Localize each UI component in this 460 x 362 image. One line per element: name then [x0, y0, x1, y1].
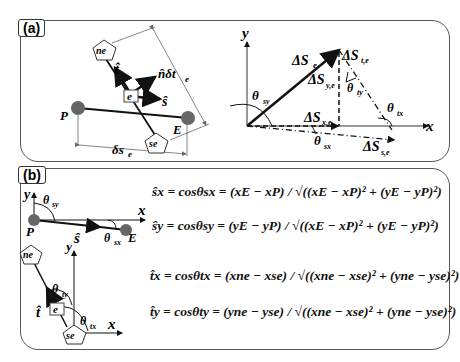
- svg-text:θ: θ: [52, 282, 59, 296]
- equation-s-x: ŝx = cosθsx = (xE − xP) / √((xE − xP)² +…: [152, 184, 442, 200]
- svg-text:sx: sx: [323, 142, 331, 151]
- svg-text:tx: tx: [397, 109, 403, 118]
- svg-text:y: y: [22, 187, 31, 202]
- svg-text:ΔS: ΔS: [303, 110, 321, 125]
- svg-text:sy: sy: [51, 200, 59, 209]
- svg-text:tx: tx: [90, 322, 96, 331]
- svg-text:P: P: [60, 108, 69, 123]
- s-vector-angle-diagram: y x θ sy P E ŝ θ sx: [0, 185, 150, 245]
- svg-text:θ: θ: [314, 133, 321, 148]
- svg-text:x: x: [137, 202, 146, 218]
- svg-text:ne: ne: [23, 249, 34, 260]
- svg-text:θ: θ: [104, 231, 111, 245]
- svg-text:ΔS: ΔS: [362, 139, 380, 154]
- svg-text:y: y: [64, 245, 73, 254]
- svg-text:θ: θ: [347, 81, 354, 95]
- svg-text:ty: ty: [357, 88, 363, 97]
- panel-b-label: (b): [18, 166, 46, 184]
- svg-text:n̂δt: n̂δt: [158, 66, 176, 81]
- mesh-face-diagram: ne se e P E t̂ n̂δt e ŝ δs e: [0, 0, 230, 165]
- svg-text:θ: θ: [80, 314, 87, 328]
- svg-text:θ: θ: [252, 88, 259, 103]
- y-axis-label: y: [240, 25, 249, 41]
- x-axis-label: x: [425, 118, 434, 134]
- svg-text:t,e: t,e: [361, 56, 369, 65]
- svg-text:x,e: x,e: [321, 118, 332, 127]
- svg-text:ŝ: ŝ: [161, 94, 168, 109]
- svg-text:ΔS: ΔS: [307, 72, 325, 87]
- svg-text:θ: θ: [387, 100, 394, 115]
- node-E: [181, 111, 195, 125]
- svg-text:ŝ: ŝ: [73, 230, 81, 245]
- svg-text:e: e: [185, 74, 189, 84]
- svg-text:se: se: [65, 330, 75, 341]
- delta-s-decomposition-diagram: y x θ sy ΔS e ΔS t,e ΔS y,e θ ty θ tx ΔS…: [230, 0, 460, 165]
- equation-t-x: t̂x = cosθtx = (xne − xse) / √((xne − xs…: [150, 268, 459, 284]
- svg-text:ΔS: ΔS: [341, 48, 359, 63]
- svg-text:e: e: [313, 60, 317, 70]
- svg-text:e: e: [128, 149, 132, 159]
- svg-text:sx: sx: [113, 238, 121, 245]
- svg-text:e: e: [53, 303, 58, 315]
- svg-text:ne: ne: [96, 45, 107, 56]
- svg-text:se: se: [148, 138, 158, 149]
- svg-text:e: e: [127, 90, 132, 102]
- svg-text:P: P: [26, 224, 35, 239]
- equation-t-y: t̂y = cosθty = (yne − yse) / √((xne − xs…: [150, 304, 456, 320]
- svg-text:δs: δs: [112, 142, 124, 157]
- t-vector-angle-diagram: ne e se y x t̂ θ ty θ tx: [0, 245, 150, 345]
- svg-text:E: E: [172, 122, 182, 137]
- svg-text:s,e: s,e: [380, 148, 390, 157]
- svg-text:t̂: t̂: [36, 304, 42, 320]
- svg-text:y,e: y,e: [325, 81, 335, 90]
- svg-text:θ: θ: [43, 193, 50, 207]
- equation-s-y: ŝy = cosθsy = (yE − yP) / √((xE − xP)² +…: [152, 218, 439, 234]
- svg-text:ty: ty: [62, 290, 68, 299]
- svg-text:x: x: [107, 316, 116, 332]
- svg-text:E: E: [127, 230, 137, 245]
- svg-text:sy: sy: [262, 97, 270, 106]
- svg-text:ΔS: ΔS: [291, 53, 309, 68]
